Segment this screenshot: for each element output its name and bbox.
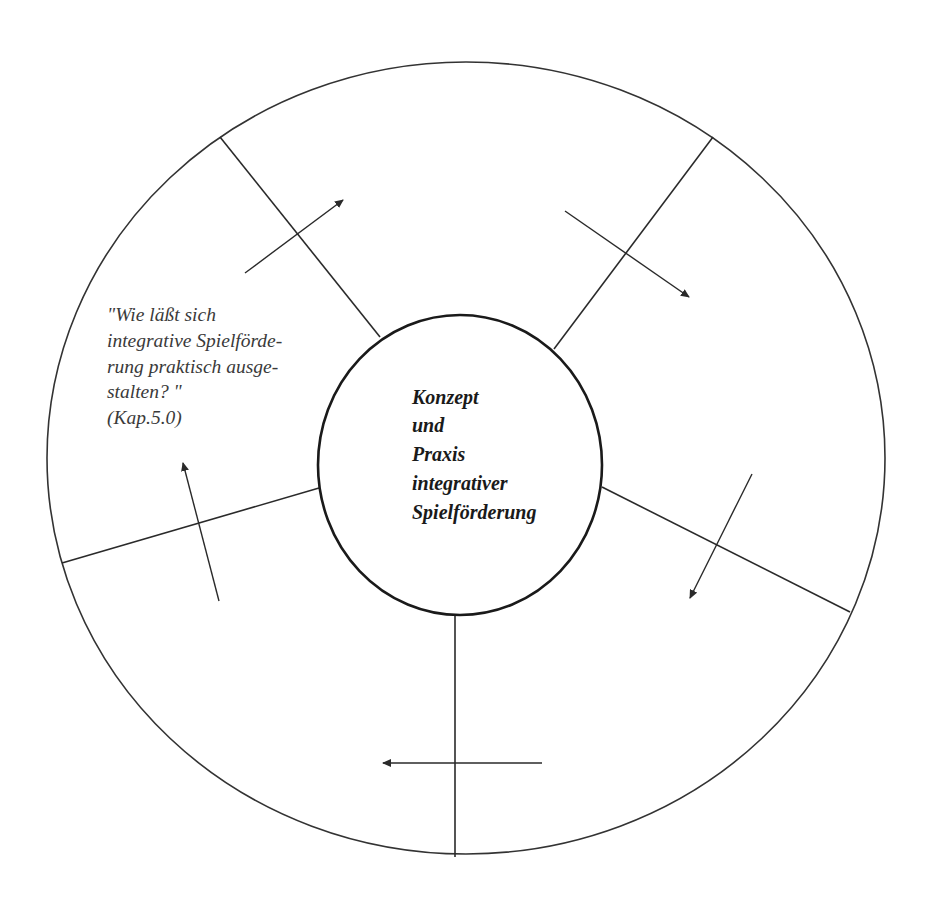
- arrow-upper-right-icon: [565, 211, 689, 297]
- question-line-4: stalten? ": [107, 381, 183, 402]
- center-line-5: Spielförderung: [412, 501, 536, 524]
- divider-upper-right: [554, 137, 713, 349]
- concept-cycle-diagram: "Wie läßt sich integrative Spielförde- r…: [0, 0, 928, 902]
- chapter-reference: (Kap.5.0): [107, 407, 182, 429]
- divider-upper-left: [220, 137, 380, 337]
- question-line-1: "Wie läßt sich: [107, 304, 216, 325]
- question-line-2: integrative Spielförde-: [107, 330, 282, 351]
- center-line-1: Konzept: [411, 386, 480, 409]
- segment-left-question: "Wie läßt sich integrative Spielförde- r…: [107, 304, 282, 429]
- divider-right: [602, 487, 850, 612]
- arrow-left-icon: [183, 463, 219, 601]
- divider-left: [62, 488, 319, 563]
- arrow-upper-left-icon: [245, 200, 343, 273]
- center-line-3: Praxis: [411, 443, 466, 465]
- question-line-3: rung praktisch ausge-: [107, 356, 278, 377]
- center-line-4: integrativer: [412, 472, 508, 495]
- inner-circle: [318, 315, 602, 615]
- center-line-2: und: [412, 414, 445, 436]
